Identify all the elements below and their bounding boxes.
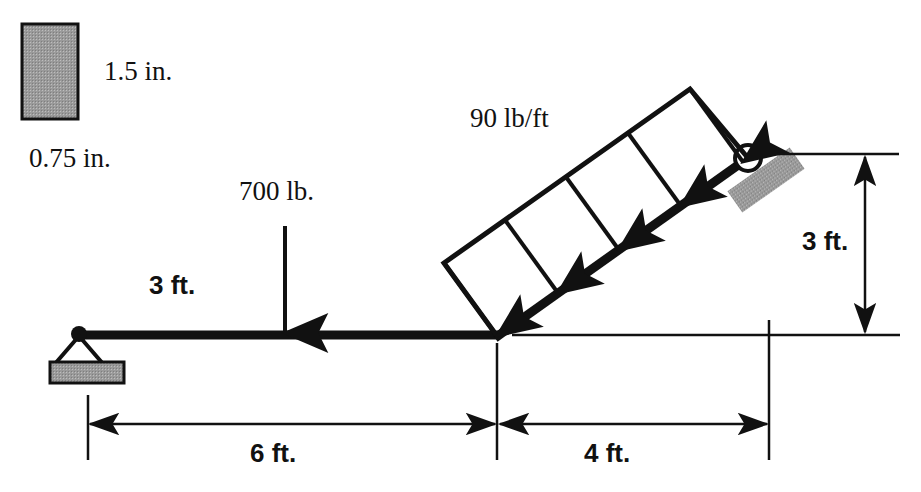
dimension-label-6ft: 6 ft. — [250, 440, 296, 466]
cross-section-height-label: 1.5 in. — [104, 58, 172, 85]
distributed-load-arrow-3 — [566, 177, 619, 250]
distributed-load-arrow-4 — [628, 133, 681, 206]
inclined-beam-line — [495, 158, 748, 338]
point-load-label: 700 lb. — [239, 178, 314, 205]
reference-lines — [88, 154, 900, 460]
cross-section-swatch — [22, 24, 78, 119]
beam-diagram-figure: 1.5 in. 0.75 in. 700 lb. 90 lb/ft 3 ft. … — [0, 0, 921, 492]
cross-section-width-label: 0.75 in. — [29, 145, 111, 172]
distributed-load-arrow-1 — [444, 263, 497, 336]
cross-section-rectangle — [22, 24, 78, 119]
inclined-beam-member — [495, 158, 748, 338]
distributed-load-arrow-2 — [505, 220, 558, 293]
pin-support-base — [50, 362, 124, 383]
distributed-load-arrow-5 — [690, 89, 743, 162]
dimension-label-3ft-rise: 3 ft. — [802, 228, 848, 254]
dimension-label-4ft: 4 ft. — [584, 440, 630, 466]
dimension-label-3ft-beam: 3 ft. — [149, 272, 195, 298]
distributed-load-label: 90 lb/ft — [470, 105, 549, 132]
